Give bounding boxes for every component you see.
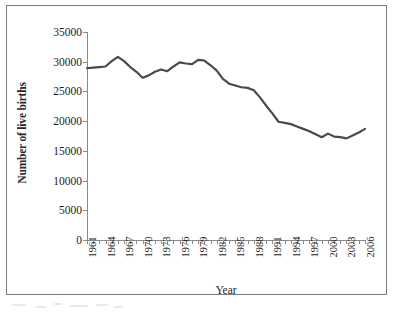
y-axis-tick-label: 0 bbox=[26, 234, 82, 246]
y-axis-tick-label: 20000 bbox=[26, 115, 82, 127]
x-axis-tick-mark bbox=[99, 240, 100, 244]
x-axis-tick-label-text: 1961 bbox=[87, 237, 98, 258]
plot-area bbox=[87, 32, 365, 240]
x-axis-tick-label-text: 1982 bbox=[217, 237, 228, 258]
x-axis-tick-mark bbox=[322, 240, 323, 244]
x-axis-tick-label-text: 1964 bbox=[106, 237, 117, 258]
x-axis-tick-mark bbox=[136, 240, 137, 244]
x-axis-tick-mark bbox=[340, 240, 341, 244]
scan-speck bbox=[114, 306, 123, 308]
y-axis-tick-labels: 05000100001500020000250003000035000 bbox=[26, 26, 82, 242]
scan-artifact bbox=[10, 303, 130, 309]
x-axis-tick-label-text: 1991 bbox=[272, 237, 283, 258]
x-axis-tick-mark bbox=[248, 240, 249, 244]
y-axis-tick-mark bbox=[83, 62, 87, 63]
x-axis-tick-mark bbox=[192, 240, 193, 244]
y-axis-tick-mark bbox=[83, 91, 87, 92]
x-axis-tick-label-text: 1988 bbox=[254, 237, 265, 258]
line-series-path bbox=[87, 57, 365, 138]
x-axis-tick-label-text: 2003 bbox=[346, 237, 357, 258]
x-axis-tick-label-text: 1973 bbox=[161, 237, 172, 258]
x-axis-tick-label-text: 1970 bbox=[143, 237, 154, 258]
x-axis-tick-label-text: 1997 bbox=[309, 237, 320, 258]
x-axis-tick-mark bbox=[173, 240, 174, 244]
y-axis-tick-label: 25000 bbox=[26, 85, 82, 97]
x-axis-tick-label-text: 1994 bbox=[291, 237, 302, 258]
y-axis-tick-mark bbox=[83, 121, 87, 122]
y-axis-tick-label: 30000 bbox=[26, 56, 82, 68]
line-series bbox=[87, 32, 365, 240]
x-axis-tick-mark bbox=[359, 240, 360, 244]
y-axis-tick-label: 5000 bbox=[26, 204, 82, 216]
x-axis-tick-mark bbox=[118, 240, 119, 244]
x-axis-title: Year bbox=[87, 284, 365, 296]
y-axis-tick-mark bbox=[83, 151, 87, 152]
y-axis-tick-label: 35000 bbox=[26, 26, 82, 38]
scan-speck bbox=[54, 303, 62, 305]
y-axis-tick-mark bbox=[83, 181, 87, 182]
x-axis-tick-label-text: 1976 bbox=[180, 237, 191, 258]
x-axis-tick-label-text: 2006 bbox=[365, 237, 376, 258]
x-axis-tick-labels: 1961196419671970197319761979198219851988… bbox=[87, 245, 377, 285]
x-axis-tick-label-text: 2000 bbox=[328, 237, 339, 258]
x-axis-tick-label-text: 1985 bbox=[235, 237, 246, 258]
chart-figure: Number of live births 050001000015000200… bbox=[0, 0, 404, 315]
scan-speck bbox=[36, 306, 46, 308]
x-axis-tick-label-text: 1979 bbox=[198, 237, 209, 258]
x-axis-tick-mark bbox=[155, 240, 156, 244]
x-axis-tick-mark bbox=[285, 240, 286, 244]
x-axis-tick-label-text: 1967 bbox=[124, 237, 135, 258]
scan-speck bbox=[12, 304, 26, 306]
x-axis-tick-mark bbox=[229, 240, 230, 244]
x-axis-tick-mark bbox=[266, 240, 267, 244]
y-axis-tick-mark bbox=[83, 32, 87, 33]
y-axis-tick-label: 10000 bbox=[26, 175, 82, 187]
scan-speck bbox=[96, 304, 108, 306]
y-axis-tick-label: 15000 bbox=[26, 145, 82, 157]
x-axis-tick-mark bbox=[303, 240, 304, 244]
x-axis-tick-mark bbox=[211, 240, 212, 244]
scan-speck bbox=[70, 305, 88, 307]
y-axis-tick-mark bbox=[83, 210, 87, 211]
